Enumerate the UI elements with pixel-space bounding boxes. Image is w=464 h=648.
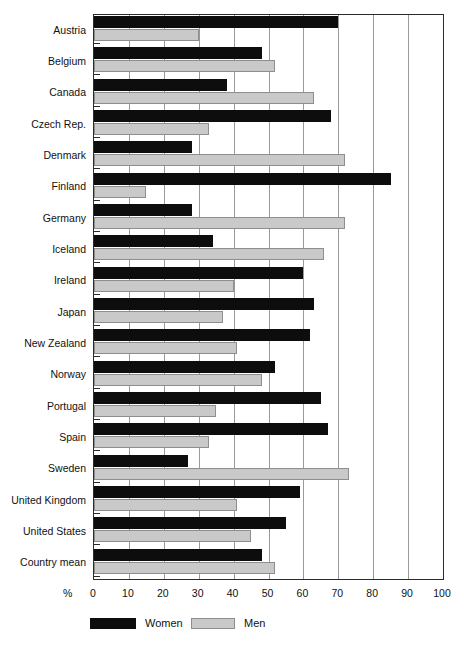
bar-men bbox=[94, 405, 216, 417]
legend-item-men: Men bbox=[191, 614, 265, 632]
bar-men bbox=[94, 530, 251, 542]
legend-item-women: Women bbox=[90, 614, 183, 632]
bar-men bbox=[94, 186, 146, 198]
bar-group bbox=[94, 234, 443, 265]
category-label: Spain bbox=[0, 431, 86, 443]
chart-legend: Women Men bbox=[0, 614, 464, 634]
bar-women bbox=[94, 455, 188, 467]
bar-men bbox=[94, 217, 345, 229]
x-tick-label-10: 10 bbox=[122, 586, 134, 600]
bar-women bbox=[94, 549, 262, 561]
bar-women bbox=[94, 79, 227, 91]
bar-women bbox=[94, 110, 331, 122]
category-label: Japan bbox=[0, 306, 86, 318]
bar-women bbox=[94, 47, 262, 59]
bar-women bbox=[94, 298, 314, 310]
bar-group bbox=[94, 109, 443, 140]
x-tick-label-0: 0 bbox=[90, 586, 96, 600]
legend-swatch-men bbox=[191, 618, 235, 629]
bar-group bbox=[94, 46, 443, 77]
category-label: United Kingdom bbox=[0, 494, 86, 506]
category-label: Sweden bbox=[0, 462, 86, 474]
category-tick bbox=[94, 262, 100, 263]
bar-women bbox=[94, 486, 300, 498]
category-tick bbox=[94, 482, 100, 483]
bar-chart: AustriaBelgiumCanadaCzech Rep.DenmarkFin… bbox=[0, 0, 464, 648]
category-tick bbox=[94, 137, 100, 138]
category-tick bbox=[94, 106, 100, 107]
category-tick bbox=[94, 419, 100, 420]
x-tick-label-50: 50 bbox=[262, 586, 274, 600]
category-label: Norway bbox=[0, 368, 86, 380]
category-tick bbox=[94, 231, 100, 232]
bar-men bbox=[94, 154, 345, 166]
bar-group bbox=[94, 391, 443, 422]
bar-group bbox=[94, 516, 443, 547]
x-axis-unit-label: % bbox=[63, 586, 72, 600]
category-tick bbox=[94, 168, 100, 169]
bar-men bbox=[94, 468, 349, 480]
x-tick-label-20: 20 bbox=[157, 586, 169, 600]
bar-women bbox=[94, 235, 213, 247]
plot-inner bbox=[94, 15, 443, 579]
bar-women bbox=[94, 141, 192, 153]
bar-group bbox=[94, 172, 443, 203]
category-tick bbox=[94, 74, 100, 75]
x-tick-label-40: 40 bbox=[227, 586, 239, 600]
bar-men bbox=[94, 342, 237, 354]
bar-men bbox=[94, 60, 275, 72]
bar-men bbox=[94, 92, 314, 104]
legend-label-women: Women bbox=[145, 617, 183, 629]
bar-men bbox=[94, 436, 209, 448]
category-label: Germany bbox=[0, 212, 86, 224]
category-label: Denmark bbox=[0, 149, 86, 161]
bar-group bbox=[94, 203, 443, 234]
bar-men bbox=[94, 311, 223, 323]
x-tick-label-90: 90 bbox=[401, 586, 413, 600]
category-label: United States bbox=[0, 525, 86, 537]
category-tick bbox=[94, 200, 100, 201]
bar-group bbox=[94, 328, 443, 359]
bar-group bbox=[94, 297, 443, 328]
bar-group bbox=[94, 485, 443, 516]
category-label: Iceland bbox=[0, 243, 86, 255]
category-label: Canada bbox=[0, 86, 86, 98]
category-label: Ireland bbox=[0, 274, 86, 286]
bar-group bbox=[94, 266, 443, 297]
category-label: Country mean bbox=[0, 556, 86, 568]
x-tick-label-70: 70 bbox=[331, 586, 343, 600]
bar-group bbox=[94, 15, 443, 46]
bar-women bbox=[94, 517, 286, 529]
bar-group bbox=[94, 454, 443, 485]
bar-women bbox=[94, 267, 303, 279]
category-tick bbox=[94, 388, 100, 389]
category-tick bbox=[94, 544, 100, 545]
x-tick-label-100: 100 bbox=[433, 586, 451, 600]
x-tick-label-60: 60 bbox=[297, 586, 309, 600]
category-label: New Zealand bbox=[0, 337, 86, 349]
bar-group bbox=[94, 360, 443, 391]
category-tick bbox=[94, 325, 100, 326]
bar-women bbox=[94, 423, 328, 435]
bar-women bbox=[94, 16, 338, 28]
bar-men bbox=[94, 280, 234, 292]
bar-women bbox=[94, 392, 321, 404]
bar-women bbox=[94, 329, 310, 341]
bar-women bbox=[94, 204, 192, 216]
bar-men bbox=[94, 248, 324, 260]
x-tick-label-80: 80 bbox=[366, 586, 378, 600]
bar-group bbox=[94, 548, 443, 579]
category-tick bbox=[94, 43, 100, 44]
x-tick-label-30: 30 bbox=[192, 586, 204, 600]
category-tick bbox=[94, 356, 100, 357]
x-axis: % 0102030405060708090100 bbox=[0, 586, 464, 602]
bar-group bbox=[94, 78, 443, 109]
bar-men bbox=[94, 123, 209, 135]
category-tick bbox=[94, 576, 100, 577]
category-label: Belgium bbox=[0, 55, 86, 67]
bar-group bbox=[94, 422, 443, 453]
bar-women bbox=[94, 361, 275, 373]
bar-group bbox=[94, 140, 443, 171]
category-label: Austria bbox=[0, 24, 86, 36]
bar-men bbox=[94, 374, 262, 386]
